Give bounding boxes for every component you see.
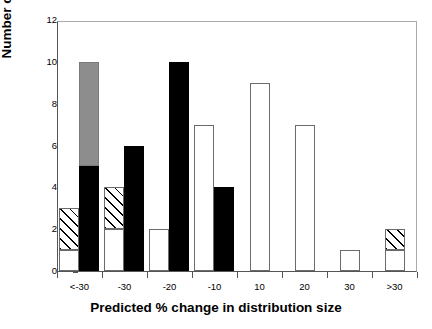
bar xyxy=(149,229,169,271)
bar-segment-white xyxy=(149,229,169,271)
bar xyxy=(340,250,360,271)
y-tick-label: 4 xyxy=(35,182,57,192)
x-tick-label: 10 xyxy=(254,281,265,292)
bar-segment-white xyxy=(194,125,214,271)
bar xyxy=(250,83,270,271)
x-tick-label: -10 xyxy=(208,281,222,292)
bar-segment-white xyxy=(104,229,124,271)
x-tick-mark xyxy=(102,272,103,278)
x-tick-label: 30 xyxy=(344,281,355,292)
bars-layer xyxy=(58,22,416,271)
y-tick-label: 0 xyxy=(35,266,57,276)
bar-segment-white xyxy=(340,250,360,271)
bar-segment-white xyxy=(385,250,405,271)
bar-segment-black xyxy=(79,166,99,271)
x-tick-label: <-30 xyxy=(70,281,89,292)
x-tick-mark xyxy=(147,272,148,278)
bar xyxy=(214,187,234,271)
x-tick-mark xyxy=(237,272,238,278)
x-tick-mark xyxy=(192,272,193,278)
bar-segment-gray xyxy=(79,62,99,167)
y-axis-title: Number of species xyxy=(0,0,14,88)
x-tick-mark xyxy=(282,272,283,278)
bar-segment-black xyxy=(214,187,234,271)
y-tick-label: 6 xyxy=(35,141,57,151)
bar-segment-white xyxy=(295,125,315,271)
bar-segment-white xyxy=(59,250,79,271)
bar xyxy=(295,125,315,271)
x-tick-label: -30 xyxy=(118,281,132,292)
bar-segment-hatch xyxy=(59,208,79,250)
bar xyxy=(385,229,405,271)
x-tick-mark xyxy=(372,272,373,278)
bar-segment-white xyxy=(250,83,270,271)
x-tick-label: >30 xyxy=(386,281,402,292)
plot-area xyxy=(57,21,417,272)
bar xyxy=(169,62,189,271)
bar-segment-black xyxy=(169,62,189,271)
x-tick-label: -20 xyxy=(163,281,177,292)
x-axis-title: Predicted % change in distribution size xyxy=(0,300,432,315)
y-tick-label: 10 xyxy=(35,57,57,67)
bar-segment-black xyxy=(124,146,144,272)
y-axis-ticks: 024681012 xyxy=(22,0,57,329)
x-tick-mark xyxy=(327,272,328,278)
x-tick-mark xyxy=(417,272,418,278)
y-tick-label: 12 xyxy=(35,15,57,25)
y-tick-label: 8 xyxy=(35,99,57,109)
bar xyxy=(104,187,124,271)
y-tick-mark xyxy=(73,272,78,273)
bar-segment-hatch xyxy=(385,229,405,250)
bar xyxy=(194,125,214,271)
chart-figure: Number of species 024681012 <-30-30-20-1… xyxy=(0,0,432,329)
y-tick-label: 2 xyxy=(35,224,57,234)
x-tick-mark xyxy=(57,272,58,278)
bar xyxy=(124,146,144,272)
bar xyxy=(79,62,99,271)
x-tick-label: 20 xyxy=(299,281,310,292)
bar xyxy=(59,208,79,271)
bar-segment-hatch xyxy=(104,187,124,229)
